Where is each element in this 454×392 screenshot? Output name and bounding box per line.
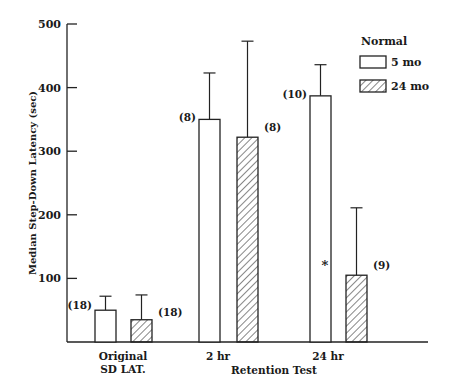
bar-5mo xyxy=(310,96,331,342)
legend-label-5mo: 5 mo xyxy=(391,56,421,69)
y-tick-label: 100 xyxy=(38,272,61,285)
legend: Normal5 mo24 mo xyxy=(360,35,429,93)
bar-24mo xyxy=(346,275,367,342)
bar-5mo xyxy=(95,310,116,342)
bars xyxy=(95,41,367,342)
x-category-label: Original xyxy=(99,350,147,362)
bar-24mo xyxy=(131,320,152,342)
legend-swatch-24mo xyxy=(360,80,386,92)
bar-5mo xyxy=(199,119,220,342)
bar-chart: 100200300400500Median Step-Down Latency … xyxy=(0,0,454,392)
n-label: (18) xyxy=(158,306,183,318)
x-category-label: 2 hr xyxy=(206,350,231,362)
n-label: (18) xyxy=(67,299,92,311)
legend-title: Normal xyxy=(361,35,407,48)
y-tick-label: 400 xyxy=(38,82,61,95)
legend-swatch-5mo xyxy=(360,56,386,68)
x-axis-label: Retention Test xyxy=(231,364,317,376)
y-tick-label: 500 xyxy=(38,18,61,31)
n-label: (9) xyxy=(373,259,390,271)
x-category-label: 24 hr xyxy=(312,350,344,362)
n-label: (10) xyxy=(282,88,307,100)
significance-asterisk: * xyxy=(322,258,329,273)
x-category-label: SD LAT. xyxy=(100,363,145,375)
bar-24mo xyxy=(237,137,258,342)
legend-label-24mo: 24 mo xyxy=(391,80,429,93)
y-tick-label: 200 xyxy=(38,209,61,222)
n-label: (8) xyxy=(264,121,281,133)
y-tick-label: 300 xyxy=(38,145,61,158)
n-label: (8) xyxy=(179,111,196,123)
y-axis-label: Median Step-Down Latency (sec) xyxy=(27,91,38,275)
